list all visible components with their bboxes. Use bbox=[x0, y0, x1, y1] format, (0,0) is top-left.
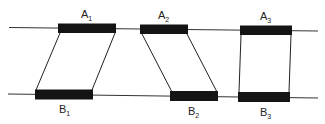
label-b2: B2 bbox=[188, 105, 199, 119]
segment-a2-bar bbox=[140, 25, 188, 35]
label-a3: A3 bbox=[260, 10, 271, 24]
segment-b1-bar bbox=[35, 90, 93, 100]
segment-b3-bar bbox=[238, 92, 290, 102]
connection-a2-b2 bbox=[142, 34, 217, 92]
segment-a3-bar bbox=[240, 26, 292, 36]
label-b1: B1 bbox=[59, 103, 70, 117]
label-b3: B3 bbox=[260, 106, 271, 120]
connection-a1-b1 bbox=[36, 33, 115, 90]
segment-a1-bar bbox=[58, 24, 116, 34]
connection-a3-b3 bbox=[239, 35, 291, 92]
segment-b2-bar bbox=[170, 91, 218, 101]
label-a2: A2 bbox=[158, 9, 169, 23]
label-a1: A1 bbox=[81, 8, 92, 22]
pairing-diagram: A1 A2 A3 B1 B2 B3 bbox=[0, 0, 325, 124]
